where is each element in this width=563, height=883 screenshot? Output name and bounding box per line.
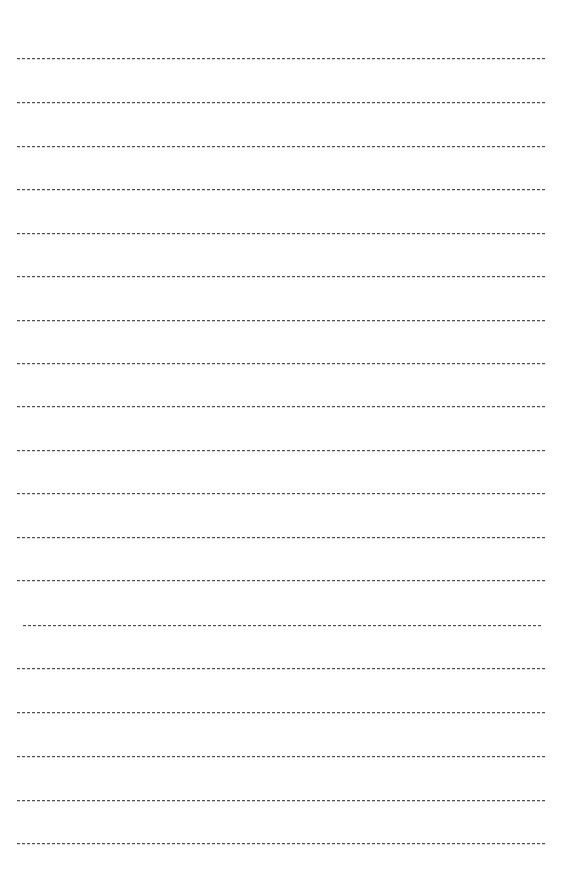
ruled-guide-line: [17, 580, 546, 581]
ruled-guide-line: [17, 800, 545, 801]
ruled-guide-line: [17, 58, 545, 59]
ruled-guide-line: [17, 233, 545, 234]
ruled-guide-line: [17, 450, 545, 451]
ruled-guide-line: [17, 320, 545, 321]
ruled-guide-line: [17, 537, 545, 538]
ruled-guide-line: [17, 276, 545, 277]
ruled-guide-line: [23, 625, 541, 626]
ruled-guide-line: [17, 668, 545, 669]
ruled-guide-line: [17, 102, 545, 103]
ruled-guide-line: [17, 493, 546, 494]
ruled-guide-line: [17, 712, 545, 713]
ruled-guide-line: [17, 189, 546, 190]
ruled-guide-line: [17, 406, 545, 407]
ruled-guide-line: [17, 363, 546, 364]
ruled-guide-line: [17, 146, 545, 147]
ruled-guide-line: [17, 756, 546, 757]
ruled-sheet-page: [0, 0, 563, 883]
ruled-guide-line: [17, 843, 545, 844]
